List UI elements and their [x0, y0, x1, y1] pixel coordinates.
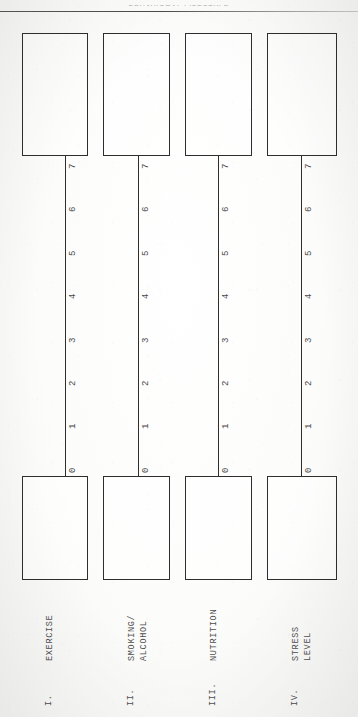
category-label-stress-level: STRESS: [290, 626, 302, 661]
scale-tick-label: 3: [305, 337, 314, 342]
scale-column-exercise: [22, 0, 88, 717]
category-label-line-2: LEVEL: [303, 632, 313, 661]
scale-column-stress-level: [267, 0, 337, 717]
top-response-box[interactable]: [267, 33, 337, 156]
bottom-response-box[interactable]: [185, 476, 252, 580]
scale-tick-label: 5: [305, 250, 314, 255]
scale-tick-label: 0: [69, 467, 78, 472]
scale-column-smoking-alcohol: [103, 0, 170, 717]
top-response-box[interactable]: [103, 33, 170, 156]
top-response-box[interactable]: [22, 33, 88, 156]
scale-axis-line: [218, 156, 219, 476]
category-label-line-1: EXERCISE: [45, 615, 55, 661]
scale-axis-line: [65, 156, 66, 476]
category-label-smoking-alcohol: SMOKING/: [126, 615, 138, 661]
category-label-line-1: STRESS: [291, 626, 301, 661]
category-label-line-1: NUTRITION: [209, 609, 219, 661]
scanned-page: BEHAVIORAL LIFESTYLE 7654321076543: [0, 0, 358, 717]
category-label-nutrition: NUTRITION: [208, 609, 220, 661]
scale-tick-label: 2: [69, 381, 78, 386]
scale-tick-label: 5: [142, 250, 151, 255]
scale-tick-label: 6: [222, 207, 231, 212]
scale-tick-label: 6: [305, 207, 314, 212]
bottom-response-box[interactable]: [103, 476, 170, 580]
category-label-exercise: EXERCISE: [44, 615, 56, 661]
bottom-response-box[interactable]: [22, 476, 88, 580]
category-label-line-2: ALCOHOL: [139, 620, 149, 661]
scale-columns-container: [0, 0, 358, 717]
scale-tick-label: 2: [142, 381, 151, 386]
scale-tick-label: 5: [222, 250, 231, 255]
scale-axis-line: [138, 156, 139, 476]
scale-tick-label: 1: [305, 424, 314, 429]
scale-tick-label: 0: [222, 467, 231, 472]
category-label-line-1: SMOKING/: [127, 615, 137, 661]
scale-tick-label: 4: [142, 294, 151, 299]
category-numeral-nutrition: III.: [208, 683, 218, 706]
scale-tick-label: 2: [222, 381, 231, 386]
scale-axis-line: [301, 156, 302, 476]
scale-tick-label: 7: [305, 164, 314, 169]
scale-tick-label: 1: [142, 424, 151, 429]
scale-tick-label: 0: [142, 467, 151, 472]
category-numeral-exercise: I.: [44, 694, 54, 706]
top-response-box[interactable]: [185, 33, 252, 156]
scale-tick-label: 5: [69, 250, 78, 255]
scale-tick-label: 7: [69, 164, 78, 169]
scale-tick-label: 0: [305, 467, 314, 472]
scale-tick-label: 4: [305, 294, 314, 299]
scale-tick-label: 3: [222, 337, 231, 342]
scale-tick-label: 3: [142, 337, 151, 342]
category-numeral-stress-level: IV.: [290, 689, 300, 706]
scale-tick-label: 2: [305, 381, 314, 386]
bottom-response-box[interactable]: [267, 476, 337, 580]
scale-tick-label: 7: [222, 164, 231, 169]
scale-tick-label: 6: [142, 207, 151, 212]
scale-tick-label: 6: [69, 207, 78, 212]
scale-tick-label: 1: [222, 424, 231, 429]
scale-tick-label: 1: [69, 424, 78, 429]
category-label-smoking-alcohol-line2: ALCOHOL: [138, 620, 150, 661]
scale-tick-label: 4: [222, 294, 231, 299]
scale-tick-label: 4: [69, 294, 78, 299]
scale-tick-label: 3: [69, 337, 78, 342]
scale-tick-label: 7: [142, 164, 151, 169]
category-numeral-smoking-alcohol: II.: [126, 689, 136, 706]
category-label-stress-level-line2: LEVEL: [302, 632, 314, 661]
